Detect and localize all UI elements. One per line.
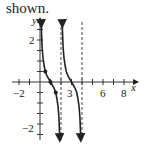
- point-marker: [43, 70, 47, 74]
- y-axis-label: y: [31, 14, 37, 26]
- y-tick-label: −2: [22, 122, 34, 134]
- point-marker: [49, 80, 53, 84]
- x-tick-label: 8: [121, 87, 127, 99]
- x-axis-label: x: [130, 81, 136, 93]
- x-tick-label: 6: [100, 87, 106, 99]
- cotangent-graph: −2 3 6 8 2 −2 x y: [0, 0, 149, 146]
- x-tick-label: 3: [67, 87, 73, 99]
- curve-branch-2: [62, 24, 80, 138]
- point-marker: [54, 91, 58, 95]
- y-tick-label: 2: [29, 34, 35, 46]
- x-tick-label: −2: [13, 87, 25, 99]
